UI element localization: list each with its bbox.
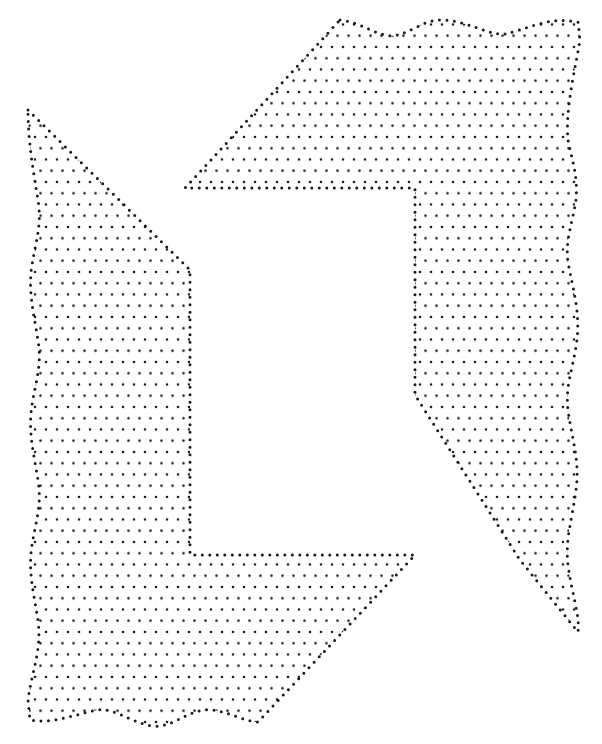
- top-right-dot-fill: [185, 20, 580, 632]
- bottom-left-dot-fill: [28, 110, 415, 726]
- bottom-left-l-shape: [28, 110, 415, 726]
- top-right-l-shape: [185, 20, 580, 632]
- stippled-l-shapes-figure: [0, 0, 602, 744]
